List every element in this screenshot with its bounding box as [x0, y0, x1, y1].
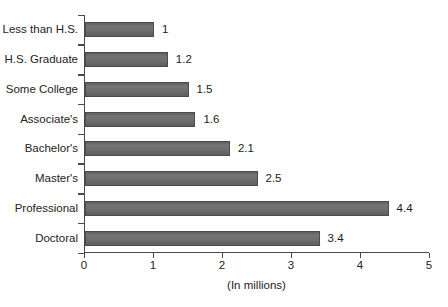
x-axis-tick — [291, 253, 293, 258]
x-axis-tick — [222, 253, 224, 258]
value-label: 2.1 — [238, 141, 254, 156]
category-label: Doctoral — [0, 231, 78, 246]
x-axis-tick — [84, 253, 86, 258]
x-axis-tick-label: 2 — [212, 259, 232, 271]
value-label: 1.5 — [197, 82, 213, 97]
x-axis-tick — [153, 253, 155, 258]
x-axis-tick-label: 1 — [143, 259, 163, 271]
y-axis-tick — [78, 44, 84, 46]
value-label: 1.2 — [176, 52, 192, 67]
bar-less-than-h-s — [85, 22, 154, 37]
bar-associate-s — [85, 112, 195, 127]
bar-h-s-graduate — [85, 52, 168, 67]
category-label: Associate's — [0, 112, 78, 127]
y-axis-tick — [78, 15, 84, 17]
bar-master-s — [85, 171, 258, 186]
category-label: Less than H.S. — [0, 22, 78, 37]
category-label: Some College — [0, 82, 78, 97]
category-label: Bachelor's — [0, 141, 78, 156]
value-label: 2.5 — [266, 171, 282, 186]
horizontal-bar-chart: Less than H.S.1H.S. Graduate1.2Some Coll… — [0, 0, 448, 307]
y-axis-tick — [78, 223, 84, 225]
category-label: H.S. Graduate — [0, 52, 78, 67]
bar-some-college — [85, 82, 189, 97]
x-axis-tick-label: 5 — [419, 259, 439, 271]
bar-bachelor-s — [85, 141, 230, 156]
x-axis-tick-label: 3 — [281, 259, 301, 271]
x-axis-tick — [360, 253, 362, 258]
y-axis-tick — [78, 193, 84, 195]
y-axis-tick — [78, 134, 84, 136]
value-label: 1 — [162, 22, 168, 37]
y-axis-tick — [78, 104, 84, 106]
bar-professional — [85, 201, 389, 216]
plot-area — [84, 15, 429, 253]
y-axis-tick — [78, 74, 84, 76]
x-axis-tick-label: 0 — [74, 259, 94, 271]
x-axis-tick-label: 4 — [350, 259, 370, 271]
category-label: Master's — [0, 171, 78, 186]
x-axis-tick — [429, 253, 431, 258]
value-label: 4.4 — [397, 201, 413, 216]
value-label: 3.4 — [328, 231, 344, 246]
x-axis-label: (In millions) — [84, 279, 429, 291]
bar-doctoral — [85, 231, 320, 246]
category-label: Professional — [0, 201, 78, 216]
value-label: 1.6 — [203, 112, 219, 127]
y-axis-tick — [78, 163, 84, 165]
